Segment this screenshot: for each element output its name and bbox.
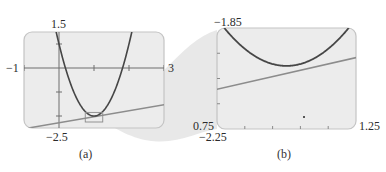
panel-a-xmin-label: −1 bbox=[6, 62, 19, 74]
figure: 1.5 −1 3 −2.5 (a) −1.85 0.75 −2.25 1.25 … bbox=[0, 0, 386, 172]
panel-a-caption: (a) bbox=[79, 148, 92, 160]
panel-a-ymax-label: 1.5 bbox=[51, 18, 66, 30]
panel-b-caption: (b) bbox=[277, 148, 291, 160]
panel-b-ymin-label: −2.25 bbox=[199, 131, 227, 143]
panel-b-ymax-label: −1.85 bbox=[214, 16, 242, 28]
panel-a-ymin-label: −2.5 bbox=[46, 131, 68, 143]
scan-speck bbox=[303, 116, 305, 118]
panel-a-frame bbox=[24, 32, 164, 128]
panel-b-xmax-label: 1.25 bbox=[359, 120, 380, 132]
panel-a-xmax-label: 3 bbox=[168, 62, 174, 74]
panel-a bbox=[17, 0, 171, 130]
